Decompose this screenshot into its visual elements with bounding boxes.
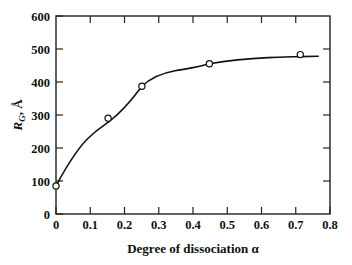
svg-text:RG, Å: RG, Å — [10, 99, 27, 132]
y-axis-tick-labels: 0 100 200 300 400 500 600 — [31, 10, 50, 222]
x-axis-tick-labels: 0 0.1 0.2 0.3 0.4 0.5 0.6 0.7 0.8 — [53, 218, 338, 232]
y-tick-label: 400 — [31, 76, 50, 90]
y-tick-label: 600 — [31, 10, 50, 24]
data-series-line — [56, 56, 318, 186]
x-tick-label: 0.2 — [117, 218, 133, 232]
data-point — [206, 61, 212, 67]
x-tick-label: 0 — [53, 218, 59, 232]
x-tick-label: 0.3 — [151, 218, 167, 232]
data-point — [139, 83, 145, 89]
x-tick-label: 0.5 — [219, 218, 235, 232]
y-tick-label: 300 — [31, 109, 50, 123]
x-tick-label: 0.8 — [322, 218, 338, 232]
y-axis-ticks-right — [323, 49, 330, 181]
data-point — [105, 115, 111, 121]
y-tick-label: 200 — [31, 142, 50, 156]
x-axis-title: Degree of dissociation α — [127, 241, 259, 256]
data-markers — [53, 52, 304, 189]
x-tick-label: 0.6 — [254, 218, 270, 232]
x-tick-label: 0.7 — [288, 218, 304, 232]
data-point — [53, 183, 59, 189]
data-point — [297, 52, 303, 58]
chart-figure: 0 0.1 0.2 0.3 0.4 0.5 0.6 0.7 0.8 0 100 … — [0, 0, 352, 265]
y-tick-label: 500 — [31, 43, 50, 57]
x-tick-label: 0.1 — [82, 218, 98, 232]
y-tick-label: 100 — [31, 175, 50, 189]
x-axis-ticks-top — [90, 16, 296, 23]
y-tick-label: 0 — [44, 208, 50, 222]
x-tick-label: 0.4 — [185, 218, 201, 232]
x-axis-ticks-bottom — [56, 207, 330, 214]
plot-frame — [56, 16, 330, 214]
chart-plot-area: 0 0.1 0.2 0.3 0.4 0.5 0.6 0.7 0.8 0 100 … — [0, 0, 352, 265]
y-axis-unit: Å — [10, 99, 25, 109]
y-axis-title: RG, Å — [10, 99, 27, 132]
y-axis-symbol: R — [10, 122, 25, 132]
